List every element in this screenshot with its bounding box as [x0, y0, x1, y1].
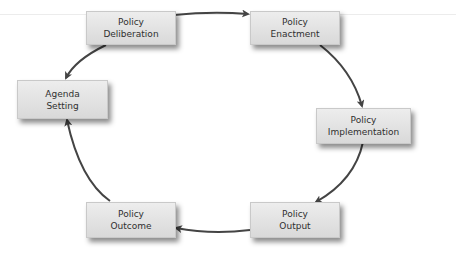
- node-policy-output: Policy Output: [250, 202, 340, 238]
- arrow-output-outcome: [176, 228, 250, 232]
- node-label-line2: Enactment: [271, 28, 320, 40]
- node-policy-deliberation: Policy Deliberation: [86, 11, 176, 45]
- arrow-agenda-deliberation: [66, 45, 106, 78]
- node-label-line1: Policy: [282, 16, 308, 28]
- node-policy-outcome: Policy Outcome: [86, 202, 176, 238]
- arrow-implementation-output: [316, 142, 363, 202]
- node-policy-enactment: Policy Enactment: [250, 11, 340, 45]
- node-agenda-setting: Agenda Setting: [17, 80, 108, 119]
- node-label-line1: Agenda: [45, 88, 79, 100]
- arrow-enactment-implementation: [320, 45, 362, 106]
- node-label-line1: Policy: [351, 114, 377, 126]
- node-label-line1: Policy: [118, 208, 144, 220]
- node-label-line2: Setting: [46, 100, 78, 112]
- node-label-line2: Implementation: [328, 126, 399, 138]
- node-label-line2: Output: [279, 220, 310, 232]
- node-label-line1: Policy: [282, 208, 308, 220]
- node-label-line2: Outcome: [110, 220, 151, 232]
- node-label-line1: Policy: [118, 16, 144, 28]
- node-label-line2: Deliberation: [103, 28, 158, 40]
- arrow-outcome-agenda: [67, 120, 110, 201]
- node-policy-implementation: Policy Implementation: [316, 108, 411, 144]
- arrow-deliberation-enactment: [174, 13, 248, 15]
